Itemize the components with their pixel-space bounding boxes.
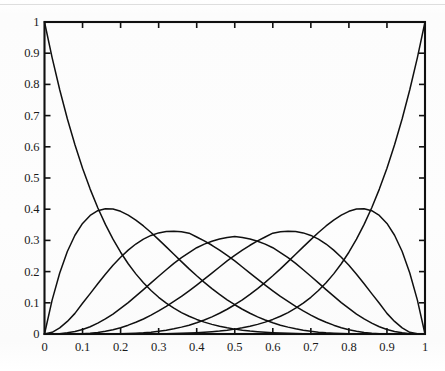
y-tick-label-3: 0.3 bbox=[24, 233, 39, 248]
curve-series-6 bbox=[45, 22, 426, 334]
axis-ticks bbox=[45, 22, 426, 334]
x-tick-label-7: 0.7 bbox=[303, 340, 318, 355]
y-tick-label-8: 0.8 bbox=[24, 77, 39, 92]
x-tick-label-3: 0.3 bbox=[151, 340, 166, 355]
x-tick-label-6: 0.6 bbox=[265, 340, 280, 355]
x-tick-label-10: 1 bbox=[422, 340, 428, 355]
curve-series-0 bbox=[45, 22, 426, 334]
y-tick-label-2: 0.2 bbox=[24, 264, 39, 279]
x-tick-label-2: 0.2 bbox=[113, 340, 128, 355]
y-tick-label-5: 0.5 bbox=[24, 171, 39, 186]
x-tick-label-4: 0.4 bbox=[189, 340, 204, 355]
y-tick-label-10: 1 bbox=[33, 15, 39, 30]
curve-series-group bbox=[45, 22, 426, 334]
curve-series-2 bbox=[45, 231, 426, 334]
curve-series-1 bbox=[45, 209, 426, 334]
axes-box bbox=[45, 22, 426, 334]
curve-series-5 bbox=[45, 209, 426, 334]
axes-frame bbox=[45, 22, 426, 334]
x-tick-label-9: 0.9 bbox=[379, 340, 394, 355]
y-tick-label-9: 0.9 bbox=[24, 46, 39, 61]
y-tick-label-6: 0.6 bbox=[24, 139, 39, 154]
x-tick-label-1: 0.1 bbox=[75, 340, 90, 355]
y-tick-label-0: 0 bbox=[33, 327, 39, 342]
y-tick-label-7: 0.7 bbox=[24, 108, 39, 123]
chart-figure: 00.10.20.30.40.50.60.70.80.91 00.10.20.3… bbox=[0, 0, 445, 371]
x-tick-label-0: 0 bbox=[41, 340, 47, 355]
y-tick-label-1: 0.1 bbox=[24, 295, 39, 310]
y-tick-label-4: 0.4 bbox=[24, 202, 39, 217]
x-tick-label-5: 0.5 bbox=[227, 340, 242, 355]
curve-series-3 bbox=[45, 237, 426, 335]
x-tick-label-8: 0.8 bbox=[341, 340, 356, 355]
plot-canvas bbox=[0, 0, 445, 371]
curve-series-4 bbox=[45, 231, 426, 334]
